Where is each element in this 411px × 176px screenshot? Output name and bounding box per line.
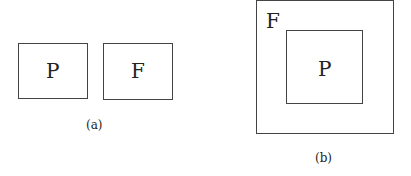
inner-label-p: P	[318, 59, 331, 79]
caption-a: (a)	[86, 119, 103, 131]
label-f: F	[131, 61, 145, 81]
caption-b: (b)	[315, 152, 332, 164]
label-p: P	[46, 61, 59, 81]
outer-label-f: F	[266, 11, 280, 31]
